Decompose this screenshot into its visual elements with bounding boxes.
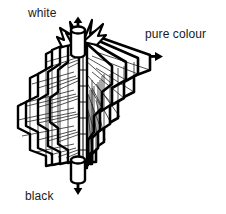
white-node-cylinder <box>71 27 85 58</box>
black-node-cylinder <box>71 157 85 184</box>
arrow-down-icon <box>74 183 83 195</box>
label-white: white <box>28 7 57 20</box>
arrow-right-icon <box>150 52 163 61</box>
hue-pages-left-back <box>18 40 80 166</box>
munsell-colour-solid-figure: white pure colour black <box>0 0 226 214</box>
label-black: black <box>25 190 54 203</box>
arrow-up-icon <box>74 17 83 28</box>
label-pure-colour: pure colour <box>145 28 206 41</box>
